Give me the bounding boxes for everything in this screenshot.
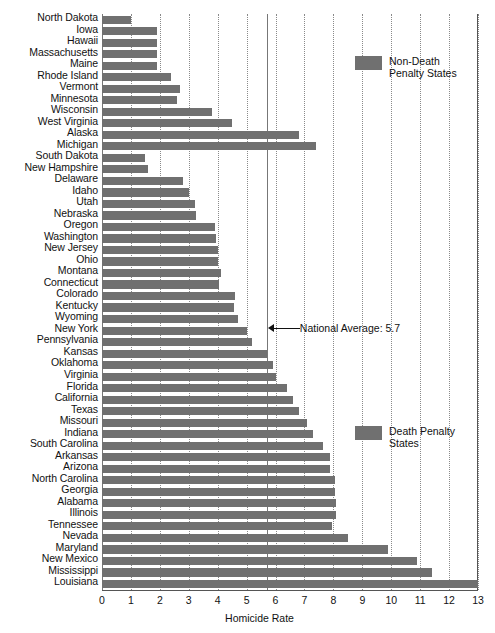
bar-label-new-mexico: New Mexico xyxy=(42,553,98,565)
bar-washington xyxy=(102,234,216,242)
bar-oklahoma xyxy=(102,361,273,369)
bar-kansas xyxy=(102,350,267,358)
bar-illinois xyxy=(102,511,336,519)
bar-label-nevada: Nevada xyxy=(62,530,98,542)
x-tick-label-2: 2 xyxy=(157,594,163,606)
bar-new-york xyxy=(102,327,247,335)
bar-wyoming xyxy=(102,315,238,323)
national-average-annotation: National Average: 5.7 xyxy=(268,322,400,334)
bar-colorado xyxy=(102,292,235,300)
legend-label-non-death: Non-Death Penalty States xyxy=(389,55,457,80)
bar-label-south-carolina: South Carolina xyxy=(30,438,98,450)
bar-tennessee xyxy=(102,522,332,530)
bar-arkansas xyxy=(102,453,330,461)
bar-montana xyxy=(102,269,221,277)
bar-delaware xyxy=(102,177,183,185)
x-tick-label-0: 0 xyxy=(99,594,105,606)
legend-non-death-penalty: Non-Death Penalty States xyxy=(355,55,457,80)
bar-south-dakota xyxy=(102,154,145,162)
bar-georgia xyxy=(102,488,335,496)
bar-pennsylvania xyxy=(102,338,252,346)
bar-label-alaska: Alaska xyxy=(67,127,98,139)
x-tick-label-12: 12 xyxy=(443,594,455,606)
bar-utah xyxy=(102,200,195,208)
bar-label-delaware: Delaware xyxy=(54,173,98,185)
bar-south-carolina xyxy=(102,442,323,450)
bar-connecticut xyxy=(102,280,219,288)
bar-maine xyxy=(102,62,157,70)
x-axis-ticks: 012345678910111213 xyxy=(0,594,495,610)
x-tick-label-1: 1 xyxy=(128,594,134,606)
x-tick-label-10: 10 xyxy=(385,594,397,606)
bar-florida xyxy=(102,384,287,392)
bar-north-dakota xyxy=(102,16,131,24)
bar-mississippi xyxy=(102,568,432,576)
bar-row: Louisiana xyxy=(0,578,495,590)
bar-label-illinois: Illinois xyxy=(70,507,98,519)
bar-virginia xyxy=(102,373,276,381)
bar-kentucky xyxy=(102,303,234,311)
bar-label-hawaii: Hawaii xyxy=(67,35,98,47)
x-axis-line xyxy=(102,590,478,591)
bar-label-south-dakota: South Dakota xyxy=(36,150,98,162)
bar-new-mexico xyxy=(102,557,417,565)
x-tick-label-7: 7 xyxy=(302,594,308,606)
bar-label-maine: Maine xyxy=(70,58,98,70)
bar-hawaii xyxy=(102,39,157,47)
legend-swatch-non-death-icon xyxy=(355,56,382,70)
bar-new-hampshire xyxy=(102,165,148,173)
x-tick-label-11: 11 xyxy=(415,594,426,606)
bar-texas xyxy=(102,407,299,415)
bar-nevada xyxy=(102,534,348,542)
bar-indiana xyxy=(102,430,313,438)
homicide-rate-bar-chart: North DakotaIowaHawaiiMassachusettsMaine… xyxy=(0,0,495,633)
bar-rows: North DakotaIowaHawaiiMassachusettsMaine… xyxy=(0,14,495,590)
bar-label-missouri: Missouri xyxy=(60,415,98,427)
legend-label-death: Death Penalty States xyxy=(389,425,455,450)
bar-label-wisconsin: Wisconsin xyxy=(51,104,98,116)
x-tick-label-5: 5 xyxy=(244,594,250,606)
bar-north-carolina xyxy=(102,476,335,484)
bar-rhode-island xyxy=(102,73,171,81)
bar-row: New Jersey xyxy=(0,244,495,256)
x-tick-label-4: 4 xyxy=(215,594,221,606)
x-axis-title-text: Homicide Rate xyxy=(225,612,294,624)
arrow-left-icon xyxy=(268,324,300,333)
bar-label-georgia: Georgia xyxy=(61,484,98,496)
x-tick-label-9: 9 xyxy=(359,594,365,606)
x-axis-title: Homicide Rate xyxy=(0,612,495,624)
national-average-label: National Average: 5.7 xyxy=(300,322,400,334)
bar-label-vermont: Vermont xyxy=(60,81,98,93)
x-tick-label-3: 3 xyxy=(186,594,192,606)
bar-alaska xyxy=(102,131,299,139)
bar-row: North Dakota xyxy=(0,14,495,26)
x-tick-label-8: 8 xyxy=(330,594,336,606)
bar-label-arizona: Arizona xyxy=(63,461,98,473)
bar-iowa xyxy=(102,27,157,35)
bar-minnesota xyxy=(102,96,177,104)
bar-missouri xyxy=(102,419,307,427)
bar-idaho xyxy=(102,188,189,196)
bar-wisconsin xyxy=(102,108,212,116)
bar-ohio xyxy=(102,257,218,265)
bar-label-virginia: Virginia xyxy=(64,369,98,381)
bar-west-virginia xyxy=(102,119,232,127)
bar-label-louisiana: Louisiana xyxy=(54,576,98,588)
bar-california xyxy=(102,396,293,404)
bar-massachusetts xyxy=(102,50,157,58)
bar-label-north-dakota: North Dakota xyxy=(37,12,98,24)
bar-label-california: California xyxy=(55,392,98,404)
bar-alabama xyxy=(102,499,336,507)
legend-death-penalty: Death Penalty States xyxy=(355,425,455,450)
x-tick-label-6: 6 xyxy=(273,594,279,606)
bar-louisiana xyxy=(102,580,478,588)
bar-maryland xyxy=(102,545,388,553)
legend-swatch-death-icon xyxy=(355,426,382,440)
bar-new-jersey xyxy=(102,246,218,254)
bar-nebraska xyxy=(102,211,196,219)
bar-michigan xyxy=(102,142,316,150)
bar-oregon xyxy=(102,223,215,231)
bar-row: Idaho xyxy=(0,187,495,199)
bar-arizona xyxy=(102,465,330,473)
x-tick-label-13: 13 xyxy=(472,594,484,606)
